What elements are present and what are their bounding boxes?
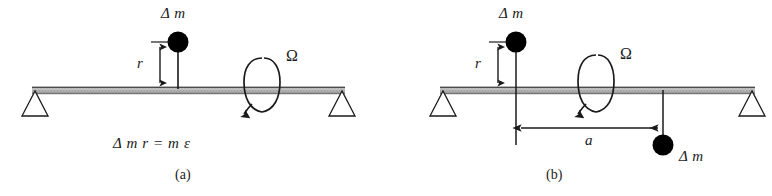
rotation-speed-label: Ω [286, 48, 298, 64]
radius-label: r [137, 56, 143, 71]
radius-dimension-r [489, 42, 508, 83]
pin-support-right [329, 91, 355, 116]
mass-bottom-label: Δ m [679, 149, 704, 164]
unbalance-mass-top [168, 32, 189, 90]
rotation-speed-label: Ω [620, 46, 632, 62]
panel-a-graphics [0, 0, 386, 196]
radius-dimension-r [151, 42, 170, 83]
panel-caption-b: (b) [546, 168, 562, 182]
shaft-beam [440, 87, 755, 95]
panel-b: Δ m Δ m r a Ω (b) [386, 0, 772, 196]
mass-top-label: Δ m [499, 6, 524, 21]
pin-support-left [430, 91, 456, 116]
pin-support-right [739, 91, 765, 116]
panel-a: Δ m r Ω Δ m r = m ε (a) [0, 0, 386, 196]
radius-label: r [475, 56, 481, 71]
pin-support-left [22, 91, 48, 116]
panel-caption-a: (a) [175, 168, 191, 182]
distance-label: a [585, 133, 593, 148]
unbalance-equation: Δ m r = m ε [113, 136, 190, 151]
shaft-beam [32, 87, 345, 95]
panel-b-graphics [386, 0, 772, 196]
rotation-arrow-omega [578, 55, 614, 114]
unbalance-mass-bottom [653, 90, 674, 156]
rotation-arrow-omega [244, 58, 280, 114]
mass-top-label: Δ m [161, 6, 186, 21]
figure-root: Δ m r Ω Δ m r = m ε (a) [0, 0, 772, 196]
